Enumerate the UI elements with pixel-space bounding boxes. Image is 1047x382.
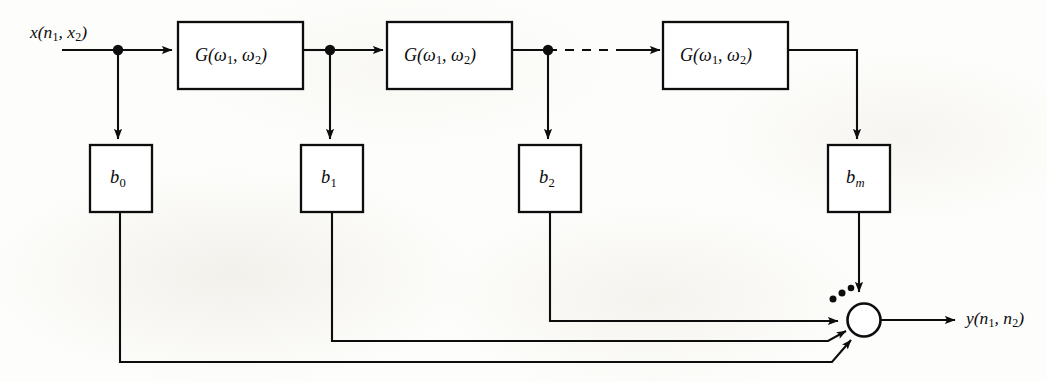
- figure-block-diagram: x(n1, x2) y(n1, n2) G(ω1, ω2) G(ω1, ω2) …: [0, 0, 1047, 382]
- filter-block-g3-text: G(ω1, ω2): [680, 45, 752, 65]
- tap-dot-0: [113, 45, 123, 55]
- input-signal-label: x(n1, x2): [30, 22, 87, 45]
- tap-dot-2: [543, 45, 553, 55]
- coefficient-block-group: [90, 145, 890, 212]
- output-signal-text: y(n1, n2): [966, 308, 1024, 328]
- coefficient-block-b2-text: b2: [539, 167, 555, 187]
- filter-block-g1-text: G(ω1, ω2): [195, 45, 267, 65]
- diagram-canvas: [0, 0, 1047, 382]
- coefficient-block-b0-label: b0: [110, 167, 126, 191]
- input-signal-text: x(n1, x2): [30, 22, 87, 42]
- wire-g3-to-bm: [788, 50, 857, 139]
- coefficient-block-bm-text: bm: [846, 167, 865, 187]
- coefficient-block-b1-label: b1: [321, 167, 337, 191]
- wire-b2-to-adder: [550, 212, 838, 321]
- wire-b0-to-adder: [120, 212, 851, 362]
- output-signal-label: y(n1, n2): [966, 308, 1024, 331]
- coefficient-block-b0-text: b0: [110, 167, 126, 187]
- summing-node[interactable]: [830, 285, 881, 337]
- summing-node-circle[interactable]: [848, 304, 881, 337]
- tap-dot-1: [325, 45, 335, 55]
- filter-block-g1-label: G(ω1, ω2): [195, 45, 267, 68]
- coefficient-block-b1-text: b1: [321, 167, 337, 187]
- coefficient-block-bm-label: bm: [846, 167, 865, 191]
- coefficient-block-b2-label: b2: [539, 167, 555, 191]
- ellipsis-dot-2: [839, 290, 846, 297]
- summation-return-wires: [120, 212, 859, 362]
- filter-block-g2-text: G(ω1, ω2): [404, 45, 476, 65]
- summing-node-ellipsis: [830, 285, 855, 303]
- filter-block-g2-label: G(ω1, ω2): [404, 45, 476, 68]
- ellipsis-dot-1: [830, 296, 837, 303]
- filter-block-g3-label: G(ω1, ω2): [680, 45, 752, 68]
- ellipsis-dot-3: [848, 285, 855, 292]
